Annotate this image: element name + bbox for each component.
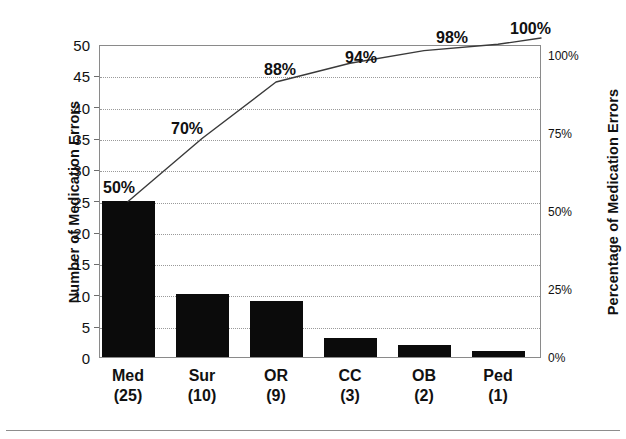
gridline-5 — [100, 328, 540, 329]
y-tick-left-25: 25 — [50, 195, 90, 210]
y-tick-left-15: 15 — [50, 257, 90, 272]
gridline-10 — [100, 296, 540, 297]
bar-sur — [176, 294, 229, 357]
y-tick-right-25: 25% — [548, 284, 598, 296]
gridline-20 — [100, 234, 540, 235]
y-tick-right-75: 75% — [548, 128, 598, 140]
pct-label-or: 88% — [264, 62, 296, 78]
gridline-15 — [100, 265, 540, 266]
y-tick-left-5: 5 — [50, 320, 90, 335]
pct-label-ped: 100% — [510, 21, 551, 37]
bar-med — [102, 201, 155, 358]
y-tick-left-30: 30 — [50, 163, 90, 178]
gridline-40 — [100, 109, 540, 110]
pct-label-sur: 70% — [171, 121, 203, 137]
y-tick-right-100: 100% — [548, 50, 598, 62]
page-divider-rule — [6, 430, 620, 431]
y-tick-left-50: 50 — [50, 38, 90, 53]
y-axis-right-title: Percentage of Medication Errors — [605, 42, 621, 362]
x-category-ped-count: (1) — [453, 386, 543, 406]
bar-or — [250, 301, 303, 357]
gridline-25 — [100, 203, 540, 204]
gridline-45 — [100, 77, 540, 78]
bar-ped — [472, 351, 525, 357]
gridline-30 — [100, 171, 540, 172]
y-tick-right-50: 50% — [548, 206, 598, 218]
y-tick-left-45: 45 — [50, 69, 90, 84]
y-tick-left-40: 40 — [50, 101, 90, 116]
x-category-ped: Ped (1) — [453, 366, 543, 407]
pct-label-ob: 98% — [436, 30, 468, 46]
y-tick-left-10: 10 — [50, 289, 90, 304]
x-category-ped-name: Ped — [453, 366, 543, 386]
y-tick-left-0: 0 — [50, 351, 90, 366]
y-tick-left-20: 20 — [50, 226, 90, 241]
y-tick-left-35: 35 — [50, 132, 90, 147]
bar-cc — [324, 338, 377, 357]
plot-area — [99, 45, 541, 358]
pct-label-med: 50% — [103, 180, 135, 196]
bar-ob — [398, 345, 451, 358]
gridline-35 — [100, 140, 540, 141]
y-tick-right-0: 0% — [548, 352, 598, 364]
pct-label-cc: 94% — [345, 50, 377, 66]
pareto-chart-figure: Number of Medication Errors Percentage o… — [0, 0, 626, 439]
